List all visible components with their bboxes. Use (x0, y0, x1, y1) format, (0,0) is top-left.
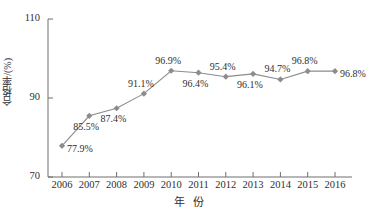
data-point-label: 94.7% (264, 63, 290, 74)
data-point-label: 87.4% (101, 113, 127, 124)
data-point-marker (195, 70, 201, 76)
data-point-marker (223, 74, 229, 80)
y-tick-label: 90 (10, 91, 40, 102)
x-axis-title: 年 份 (0, 193, 381, 209)
line-chart: 合格率/(%) 年 份 7090110 20062007200820092010… (0, 0, 381, 215)
data-point-marker (114, 105, 120, 111)
data-point-label: 96.1% (237, 79, 263, 90)
data-point-marker (250, 71, 256, 77)
data-point-marker (332, 68, 338, 74)
data-point-label: 91.1% (128, 78, 154, 89)
x-tick-label: 2016 (318, 179, 352, 190)
y-tick-label: 70 (10, 170, 40, 181)
y-tick-label: 110 (10, 12, 40, 23)
data-point-label: 96.4% (183, 78, 209, 89)
data-point-label: 96.8% (292, 55, 318, 66)
data-point-label: 85.5% (73, 121, 99, 132)
data-point-label: 77.9% (67, 143, 93, 154)
data-point-marker (305, 68, 311, 74)
y-axis-ticks (48, 19, 53, 177)
data-point-label: 96.9% (155, 55, 181, 66)
data-point-label: 96.8% (340, 68, 366, 79)
data-point-label: 95.4% (210, 61, 236, 72)
data-point-marker (277, 76, 283, 82)
axes-group (48, 19, 352, 177)
x-axis-ticks (62, 172, 335, 177)
